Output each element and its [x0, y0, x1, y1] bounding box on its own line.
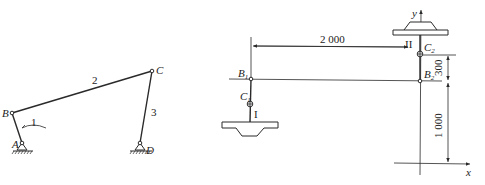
- label-joint-d: D: [145, 144, 154, 156]
- label-joint-a: A: [11, 138, 19, 150]
- x-axis: [394, 163, 470, 164]
- label-position-1: I: [254, 108, 258, 120]
- label-c2: C2: [424, 41, 435, 55]
- label-c1: C1: [240, 90, 251, 104]
- shoe-position-2-icon: [393, 22, 448, 35]
- label-joint-b: B: [2, 107, 9, 119]
- label-x-axis: x: [465, 166, 471, 178]
- link-2: [12, 71, 152, 113]
- shoe-position-1-icon: [222, 122, 278, 136]
- joint-b1-icon: [249, 77, 253, 81]
- label-y-axis: y: [411, 7, 417, 19]
- mechanism-diagram: A B C D 1 2 3: [0, 0, 485, 185]
- label-position-2: II: [405, 38, 413, 50]
- label-link-3: 3: [151, 106, 157, 118]
- label-link-2: 2: [92, 74, 98, 86]
- horizontal-reference-line: [229, 79, 442, 81]
- label-link-1: 1: [31, 116, 37, 128]
- dimension-1000-label: 1 000: [432, 113, 444, 138]
- joint-c2-icon: [417, 51, 423, 57]
- four-bar-linkage: [10, 69, 154, 154]
- dimension-2000-label: 2 000: [320, 33, 345, 45]
- joint-b-icon: [10, 111, 14, 115]
- joint-b2-icon: [418, 79, 422, 83]
- dimension-300-label: 300: [432, 59, 444, 76]
- label-b1: B1: [238, 67, 248, 81]
- two-position-diagram: [222, 10, 470, 175]
- joint-c-icon: [150, 69, 154, 73]
- label-joint-c: C: [156, 64, 164, 76]
